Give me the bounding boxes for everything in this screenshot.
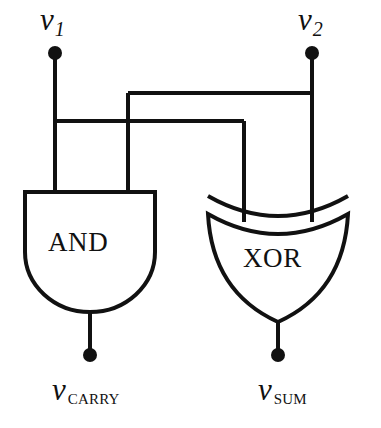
and-gate-label: AND <box>48 227 108 258</box>
logic-circuit-diagram: AND XOR v1 v2 vCARRY vSUM <box>0 0 381 428</box>
output-label-vsum: vSUM <box>258 374 307 407</box>
input-label-v1: v1 <box>40 4 65 39</box>
terminal-dot-v2[interactable] <box>305 46 319 60</box>
input-label-v1-subscript: 1 <box>54 18 65 40</box>
terminal-dot-vsum[interactable] <box>271 348 285 362</box>
output-label-vcarry-subscript: CARRY <box>66 391 120 407</box>
input-label-v2-base: v <box>298 2 312 37</box>
input-label-v1-base: v <box>40 2 54 37</box>
terminal-dot-vcarry[interactable] <box>83 348 97 362</box>
output-label-vsum-base: v <box>258 372 272 407</box>
xor-gate-label: XOR <box>243 243 302 274</box>
input-label-v2: v2 <box>298 4 323 39</box>
terminal-dot-v1[interactable] <box>48 46 62 60</box>
output-label-vcarry-base: v <box>52 372 66 407</box>
output-label-vsum-subscript: SUM <box>272 391 307 407</box>
input-label-v2-subscript: 2 <box>312 18 323 40</box>
xor-gate-outer-arc <box>208 196 348 216</box>
output-label-vcarry: vCARRY <box>52 374 120 407</box>
circuit-canvas <box>0 0 381 428</box>
